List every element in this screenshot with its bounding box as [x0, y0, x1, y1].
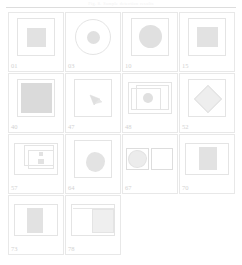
frame-box: [14, 204, 58, 236]
thumbnail-cell-67[interactable]: 67: [122, 134, 178, 194]
thumbnail-label: 10: [125, 62, 132, 70]
thumbnail-cell-52[interactable]: 52: [179, 73, 235, 133]
grid-row: 73 78: [8, 195, 240, 256]
grid-row: 57 64 67: [8, 134, 240, 195]
thumbnail-cell-48[interactable]: 48: [122, 73, 178, 133]
frame-box: [131, 18, 169, 56]
thumbnail-label: 67: [125, 184, 132, 192]
filled-circle-shape: [143, 93, 153, 103]
filled-square-shape: [27, 28, 46, 47]
filled-square-shape: [21, 83, 52, 113]
thumbnail-cell-10[interactable]: 10: [122, 12, 178, 72]
filled-square-shape: [27, 208, 43, 233]
filled-circle-shape: [87, 31, 100, 44]
filled-square-shape: [197, 27, 218, 47]
filled-circle-shape: [139, 25, 162, 48]
thumbnail-image-48: [123, 76, 177, 120]
inner-rect-outline: [73, 207, 115, 209]
thumbnail-label: 78: [68, 245, 75, 253]
thumbnail-cell-01[interactable]: 01: [8, 12, 64, 72]
diamond-shape: [194, 85, 222, 113]
thumbnail-label: 47: [68, 123, 75, 131]
thumbnail-cell-03[interactable]: 03: [65, 12, 121, 72]
frame-box: [188, 18, 226, 56]
thumbnail-cell-64[interactable]: 64: [65, 134, 121, 194]
marker-square-small: [39, 152, 43, 156]
thumbnail-cell-78[interactable]: 78: [65, 195, 121, 255]
shape-container: [74, 18, 112, 56]
thumbnail-label: 73: [11, 245, 18, 253]
thumbnail-label: 70: [182, 184, 189, 192]
filled-square-shape: [199, 147, 217, 170]
frame-box: [185, 143, 229, 175]
thumbnail-label: 57: [11, 184, 18, 192]
frame-box: [17, 18, 55, 56]
header-divider-rule: [6, 7, 236, 8]
thumbnail-label: 52: [182, 123, 189, 131]
thumbnail-image-52: [180, 76, 234, 120]
thumbnail-image-70: [180, 137, 234, 181]
thumbnail-label: 64: [68, 184, 75, 192]
thumbnail-image-01: [9, 15, 63, 59]
thumbnail-image-67: [123, 137, 177, 181]
marker-square-small-2: [38, 159, 44, 164]
grid-row: 01 03 10: [8, 12, 240, 73]
thumbnail-image-64: [66, 137, 120, 181]
grid-row: 40 47: [8, 73, 240, 134]
thumbnail-grid: 01 03 10: [8, 12, 240, 256]
thumbnail-label: 03: [68, 62, 75, 70]
figure-caption-header: Fig. 8. Sample detection results: [0, 0, 242, 7]
blob-shape: [86, 152, 105, 172]
frame-box: [74, 79, 112, 117]
triangle-wedge-shape: [75, 80, 113, 118]
filled-region-right: [92, 209, 114, 233]
thumbnail-image-10: [123, 15, 177, 59]
thumbnail-image-57: [9, 137, 63, 181]
thumbnail-image-15: [180, 15, 234, 59]
figure-page: Fig. 8. Sample detection results 01: [0, 0, 242, 265]
frame-box: [128, 82, 172, 114]
thumbnail-cell-40[interactable]: 40: [8, 73, 64, 133]
thumbnail-image-73: [9, 198, 63, 242]
frame-box: [17, 79, 55, 117]
thumbnail-cell-73[interactable]: 73: [8, 195, 64, 255]
frame-box: [74, 140, 112, 178]
frame-box: [71, 204, 115, 236]
frame-box: [14, 143, 58, 175]
thumbnail-cell-47[interactable]: 47: [65, 73, 121, 133]
thumbnail-image-78: [66, 198, 120, 242]
thumbnail-label: 01: [11, 62, 18, 70]
thumbnail-image-47: [66, 76, 120, 120]
shape-container: [126, 147, 174, 171]
thumbnail-cell-70[interactable]: 70: [179, 134, 235, 194]
thumbnail-label: 40: [11, 123, 18, 131]
frame-box: [188, 79, 226, 117]
right-box-outline: [151, 148, 173, 170]
thumbnail-image-03: [66, 15, 120, 59]
thumbnail-label: 15: [182, 62, 189, 70]
thumbnail-cell-15[interactable]: 15: [179, 12, 235, 72]
thumbnail-image-40: [9, 76, 63, 120]
thumbnail-cell-57[interactable]: 57: [8, 134, 64, 194]
thumbnail-label: 48: [125, 123, 132, 131]
